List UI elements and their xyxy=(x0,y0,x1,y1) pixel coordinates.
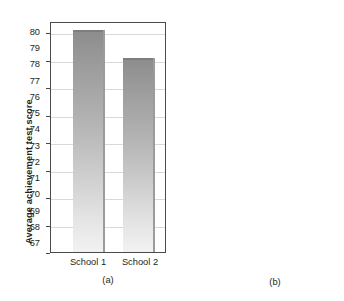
bar-top-edge xyxy=(123,58,153,60)
y-tick-label: 79 xyxy=(30,43,40,53)
y-tick-label: 76 xyxy=(30,92,40,102)
y-tick-label: 69 xyxy=(30,206,40,216)
x-axis-label: School 1 xyxy=(70,257,106,267)
chart-panel-a: Average achievement test score 010203040… xyxy=(0,0,172,301)
panel-caption-a: (a) xyxy=(102,275,113,285)
bar xyxy=(73,30,105,252)
x-axis-label: School 2 xyxy=(122,257,158,267)
y-tick-label: 70 xyxy=(30,189,40,199)
y-tick-label: 73 xyxy=(30,141,40,151)
chart-panel-b: Average achievement test score 676869707… xyxy=(172,0,344,301)
y-tick-label: 68 xyxy=(30,222,40,232)
gridline xyxy=(51,34,165,35)
plot-area-a xyxy=(50,22,166,253)
y-tick-mark xyxy=(46,253,50,254)
bar-top-edge xyxy=(73,30,103,32)
y-tick-label: 72 xyxy=(30,157,40,167)
y-tick-label: 71 xyxy=(30,173,40,183)
y-tick-label: 78 xyxy=(30,59,40,69)
y-tick-label: 80 xyxy=(30,27,40,37)
y-tick-label: 77 xyxy=(30,76,40,86)
y-tick-label: 74 xyxy=(30,124,40,134)
y-tick-label: 75 xyxy=(30,108,40,118)
y-tick-label: 67 xyxy=(30,238,40,248)
bar xyxy=(123,58,155,253)
figure-container: Average achievement test score 010203040… xyxy=(0,0,344,301)
panel-caption-b: (b) xyxy=(269,277,280,287)
